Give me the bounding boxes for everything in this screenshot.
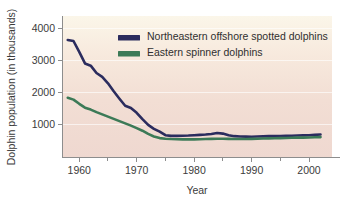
svg-text:2000: 2000 (297, 164, 321, 176)
y-axis-title: Dolphin population (in thousands) (5, 9, 17, 165)
svg-text:3000: 3000 (32, 54, 56, 66)
svg-text:4000: 4000 (32, 22, 56, 34)
legend-swatch-2 (118, 51, 140, 57)
svg-text:1970: 1970 (125, 164, 149, 176)
x-axis-title: Year (186, 184, 208, 196)
chart-canvas: 1000200030004000 19601970198019902000 Do… (0, 0, 348, 208)
svg-text:1000: 1000 (32, 118, 56, 130)
svg-text:1980: 1980 (182, 164, 206, 176)
legend-label-2: Eastern spinner dolphins (147, 46, 263, 58)
dolphin-population-chart: 1000200030004000 19601970198019902000 Do… (0, 0, 348, 208)
legend-label-1: Northeastern offshore spotted dolphins (147, 30, 328, 42)
svg-text:1960: 1960 (68, 164, 92, 176)
legend-swatch-1 (118, 35, 140, 41)
svg-text:2000: 2000 (32, 86, 56, 98)
svg-text:1990: 1990 (240, 164, 264, 176)
